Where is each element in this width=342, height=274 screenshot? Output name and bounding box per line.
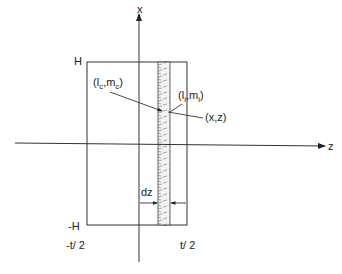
left-bound-label: -t/ 2 (66, 240, 85, 251)
center-m-sub: c (115, 82, 119, 91)
strip-m-sub: i (198, 95, 200, 104)
leader-point (168, 112, 203, 118)
center-l-sub: c (99, 82, 103, 91)
z-axis-label: z (328, 141, 334, 152)
point-label: (x,z) (205, 112, 226, 123)
strip-direction-label: (li,mi) (178, 90, 204, 104)
center-m: m (106, 76, 115, 88)
center-direction-label: (lc,mc) (93, 77, 123, 91)
strip-element (158, 62, 170, 225)
strip-l-sub: i (184, 95, 186, 104)
top-bound-label: H (74, 56, 82, 67)
bottom-bound-label: -H (68, 221, 80, 232)
x-axis-label: x (137, 4, 143, 15)
leader-center (110, 92, 162, 111)
right-bound-label: t/ 2 (180, 240, 195, 251)
dz-label: dz (141, 187, 153, 198)
leader-strip (170, 104, 182, 112)
diagram-canvas (0, 0, 342, 274)
strip-m: m (189, 89, 198, 101)
